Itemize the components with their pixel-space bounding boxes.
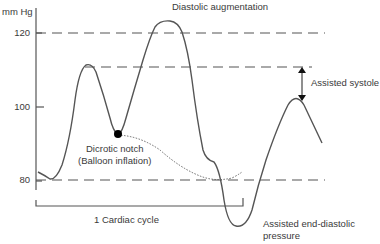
pressure-waveform <box>38 21 322 226</box>
assisted-systole-label: Assisted systole <box>311 77 379 88</box>
tick-label-80: 80 <box>2 174 30 185</box>
balloon-inflation-label: (Balloon inflation) <box>78 155 151 166</box>
diastolic-augmentation-label: Diastolic augmentation <box>172 1 268 12</box>
tick-label-120: 120 <box>2 27 30 38</box>
cardiac-cycle-label: 1 Cardiac cycle <box>94 214 159 225</box>
dicrotic-notch-marker <box>114 130 122 138</box>
cardiac-cycle-bracket <box>36 198 243 206</box>
iabp-waveform-diagram <box>0 0 380 244</box>
dicrotic-notch-label: Dicrotic notch <box>86 143 144 154</box>
arrow-head-up <box>298 67 306 73</box>
tick-label-100: 100 <box>2 101 30 112</box>
assisted-edp-label-line2: pressure <box>263 230 300 241</box>
assisted-edp-label-line1: Assisted end-diastolic <box>263 218 355 229</box>
y-axis-unit: mm Hg <box>2 6 33 17</box>
